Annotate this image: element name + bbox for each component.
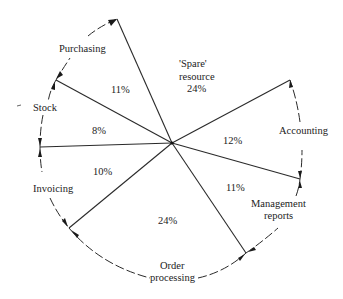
label-stock: Stock	[33, 102, 58, 113]
arc-management-lower	[246, 228, 278, 253]
spoke-spare-purchasing	[117, 19, 172, 143]
label-invoicing: Invoicing	[33, 183, 74, 194]
arrow-invoicing-top-icon	[38, 149, 42, 157]
pct-purchasing: 11%	[111, 84, 130, 95]
center-point	[170, 141, 173, 144]
label-spare-line1: 'Spare'	[179, 58, 207, 69]
label-accounting: Accounting	[279, 125, 329, 136]
spoke-order-management	[172, 143, 246, 253]
label-spare-line2: resource	[179, 71, 215, 82]
spoke-invoicing-order	[69, 143, 172, 228]
labels: Purchasing 11% Stock 8% Invoicing 10% 24…	[33, 43, 329, 283]
pie-chart-diagram: Purchasing 11% Stock 8% Invoicing 10% 24…	[0, 0, 343, 299]
pct-order: 24%	[158, 215, 178, 226]
arrow-purchasing-bottom-icon	[56, 71, 63, 79]
label-order-line1: Order	[160, 260, 185, 271]
pct-stock: 8%	[92, 125, 106, 136]
arc-order-left	[69, 228, 150, 278]
label-management-line1: Management	[251, 198, 306, 209]
pct-management: 11%	[226, 182, 245, 193]
arrow-purchasing-top-icon	[108, 19, 117, 26]
arrow-order-right-icon	[238, 254, 245, 261]
arrow-order-left-icon	[71, 230, 79, 238]
label-order-line2: processing	[150, 272, 196, 283]
pct-accounting: 12%	[223, 135, 243, 146]
spoke-management-accounting	[172, 143, 300, 179]
label-purchasing: Purchasing	[59, 43, 106, 54]
spoke-stock-invoicing	[40, 143, 172, 147]
arc-order-right	[198, 253, 246, 278]
arcs	[40, 19, 302, 278]
stray-mark	[17, 105, 21, 106]
arrow-accounting-top-icon	[289, 80, 293, 88]
arrow-stock-top-icon	[51, 82, 55, 90]
arrow-accounting-bottom-icon	[298, 181, 302, 188]
arrow-stock-bottom-icon	[38, 138, 42, 146]
pct-invoicing: 10%	[93, 166, 113, 177]
label-management-line2: reports	[264, 210, 293, 221]
arrow-management-bottom-icon	[248, 247, 256, 252]
pct-spare: 24%	[187, 83, 207, 94]
arrow-management-top-icon	[298, 171, 302, 178]
